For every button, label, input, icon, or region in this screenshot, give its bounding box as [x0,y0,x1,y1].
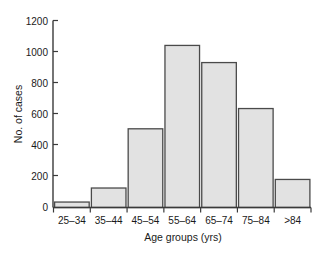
x-category-label-0: 25–34 [58,215,86,226]
y-tick-label-400: 400 [31,140,48,151]
x-category-label-1: 35–44 [95,215,123,226]
bar-25-34 [55,202,90,207]
y-tick-label-800: 800 [31,78,48,89]
bar-45-54 [128,129,163,208]
bar-65-74 [202,63,237,208]
bar-75-84 [239,109,274,208]
histogram-figure: 1200 1000 800 600 400 200 0 25–3435–4445… [0,0,320,253]
x-category-label-6: >84 [284,215,301,226]
bar-35-44 [91,188,126,207]
x-category-label-2: 45–54 [132,215,160,226]
y-tick-label-600: 600 [31,109,48,120]
x-axis-title: Age groups (yrs) [144,231,222,243]
x-category-label-5: 75–84 [242,215,270,226]
y-tick-label-200: 200 [31,171,48,182]
bar-55-64 [165,45,200,207]
y-tick-label-1200: 1200 [26,16,49,27]
bar--84 [275,179,310,207]
x-axis-category-labels: 25–3435–4445–5455–6465–7475–84>84 [58,215,302,226]
y-tick-label-1000: 1000 [26,47,49,58]
x-category-label-4: 65–74 [205,215,233,226]
x-axis-tick-marks [54,208,312,213]
y-axis-title: No. of cases [12,85,24,143]
y-axis-tick-marks [53,21,58,176]
y-tick-label-0: 0 [42,202,48,213]
x-category-label-3: 55–64 [168,215,196,226]
y-axis-tick-labels: 1200 1000 800 600 400 200 0 [26,16,49,213]
chart-canvas: 1200 1000 800 600 400 200 0 25–3435–4445… [0,0,320,253]
bar-series [55,45,310,207]
